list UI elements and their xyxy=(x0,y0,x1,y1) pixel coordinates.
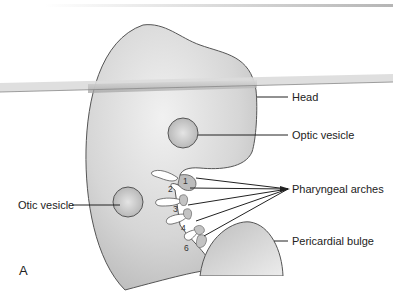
otic-vesicle xyxy=(113,187,143,217)
arch-number-4: 4 xyxy=(181,223,186,233)
top-rule xyxy=(45,4,393,7)
arch-number-6: 6 xyxy=(184,243,189,253)
label-pharyngeal-arches: Pharyngeal arches xyxy=(292,183,384,195)
arch-number-1: 1 xyxy=(183,176,188,186)
label-pericardial-bulge: Pericardial bulge xyxy=(292,235,374,247)
embryo-diagram: 1 2 3 4 6 Head Optic vesicle Pharyngeal … xyxy=(0,0,393,293)
label-head: Head xyxy=(292,91,318,103)
label-optic-vesicle: Optic vesicle xyxy=(292,129,354,141)
optic-vesicle xyxy=(168,118,198,148)
arch-number-3: 3 xyxy=(173,204,178,214)
pericardial-bulge xyxy=(200,222,283,276)
panel-label: A xyxy=(19,263,28,278)
label-otic-vesicle: Otic vesicle xyxy=(18,199,74,211)
arch-number-2: 2 xyxy=(168,184,173,194)
